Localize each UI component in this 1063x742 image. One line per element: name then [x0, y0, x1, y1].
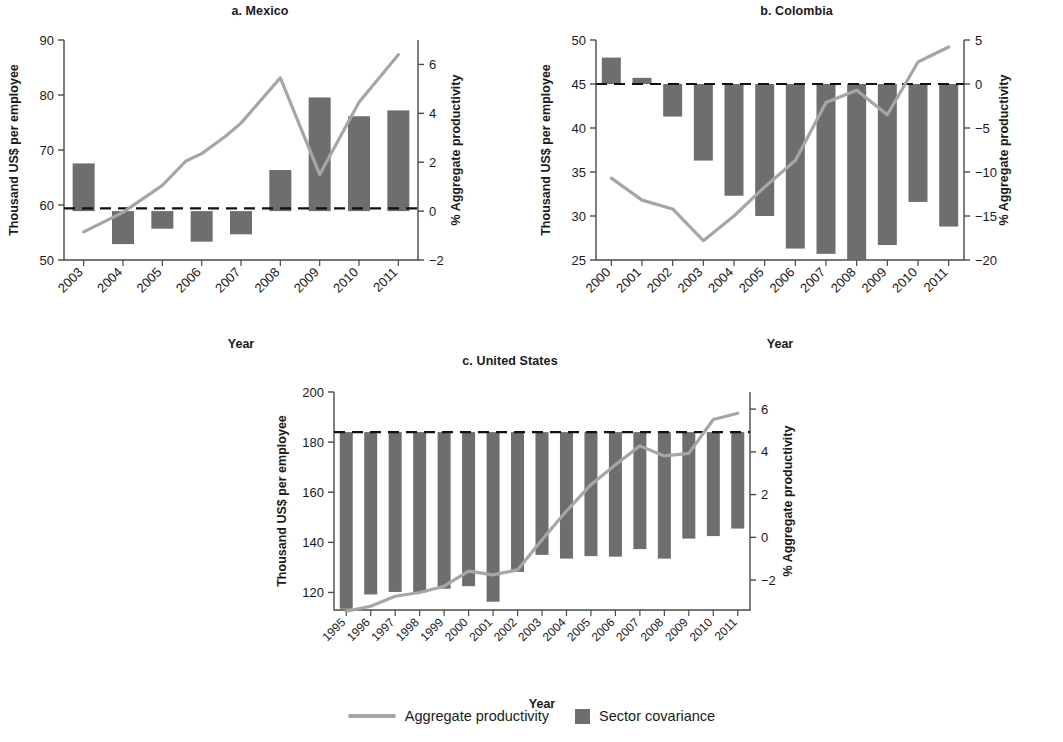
legend-swatch-icon: [575, 709, 590, 724]
bar-sector-covariance: [817, 84, 836, 254]
legend-label-aggregate-productivity: Aggregate productivity: [405, 708, 549, 724]
x-ticklabel: 2004: [94, 265, 125, 296]
y-ticklabel-left: 90: [40, 33, 54, 48]
x-ticklabel: 2006: [173, 265, 204, 296]
bar-sector-covariance: [364, 432, 377, 594]
x-ticklabel: 2001: [466, 615, 495, 644]
x-ticklabel: 1996: [344, 615, 373, 644]
x-ticklabel: 2004: [705, 265, 736, 296]
x-ticklabel: 2008: [251, 265, 282, 296]
y-ticklabel-left: 80: [40, 88, 54, 103]
x-ticklabel: 2005: [736, 265, 767, 296]
bar-sector-covariance: [269, 170, 291, 211]
x-ticklabel: 1997: [369, 615, 398, 644]
x-ticklabel: 2003: [55, 265, 86, 296]
panel-colombia: b. Colombia 253035404550−20−15−10−505200…: [530, 0, 1063, 340]
x-ticklabel: 2005: [564, 615, 593, 644]
bar-sector-covariance: [462, 432, 475, 586]
bar-sector-covariance: [658, 432, 671, 559]
legend-label-sector-covariance: Sector covariance: [599, 708, 715, 724]
panel-mexico-title: a. Mexico: [0, 4, 520, 18]
y-ticklabel-left: 200: [302, 385, 324, 400]
x-ticklabel: 2010: [889, 265, 920, 296]
panel-colombia-title: b. Colombia: [530, 4, 1063, 18]
y-axis-title-left: Thousand US$ per employee: [275, 415, 289, 587]
panel-mexico: a. Mexico 5060708090−2024620032004200520…: [0, 0, 520, 340]
bar-sector-covariance: [584, 432, 597, 556]
x-ticklabel: 2007: [797, 265, 828, 296]
x-ticklabel: 2006: [589, 615, 618, 644]
bar-sector-covariance: [387, 110, 409, 211]
bar-sector-covariance: [602, 58, 621, 84]
legend-line-icon: [348, 714, 396, 718]
panel-united-states: c. United States 120140160180200−2024619…: [230, 350, 830, 700]
y-ticklabel-left: 40: [572, 121, 586, 136]
y-ticklabel-right: 6: [429, 57, 436, 72]
y-ticklabel-right: 6: [761, 402, 768, 417]
y-ticklabel-right: 0: [761, 530, 768, 545]
y-ticklabel-left: 35: [572, 165, 586, 180]
y-ticklabel-left: 70: [40, 143, 54, 158]
y-axis-title-right: % Aggregate productivity: [449, 74, 463, 225]
x-axis-title: Year: [767, 337, 794, 351]
bar-sector-covariance: [230, 211, 252, 234]
bar-sector-covariance: [663, 84, 682, 117]
x-ticklabel: 2000: [582, 265, 613, 296]
y-ticklabel-left: 50: [40, 253, 54, 268]
bar-sector-covariance: [694, 84, 713, 161]
x-axis-title: Year: [228, 337, 255, 351]
figure-legend: Aggregate productivity Sector covariance: [0, 708, 1063, 724]
bar-sector-covariance: [560, 432, 573, 559]
y-ticklabel-left: 120: [302, 585, 324, 600]
bar-sector-covariance: [438, 432, 451, 589]
y-ticklabel-right: 0: [975, 77, 982, 92]
x-ticklabel: 2010: [330, 265, 361, 296]
x-ticklabel: 1998: [393, 615, 422, 644]
y-axis-title-right: % Aggregate productivity: [781, 425, 795, 576]
y-ticklabel-right: −10: [975, 165, 997, 180]
x-ticklabel: 2000: [442, 615, 471, 644]
x-ticklabel: 2005: [133, 265, 164, 296]
y-ticklabel-right: 2: [429, 155, 436, 170]
panel-united-states-plot: 120140160180200−202461995199619971998199…: [230, 372, 830, 700]
x-ticklabel: 2001: [613, 265, 644, 296]
y-ticklabel-right: −15: [975, 209, 997, 224]
y-ticklabel-right: 2: [761, 487, 768, 502]
bar-sector-covariance: [191, 211, 213, 242]
y-ticklabel-right: −2: [429, 253, 444, 268]
bar-sector-covariance: [755, 84, 774, 216]
y-ticklabel-right: −20: [975, 253, 997, 268]
x-ticklabel: 1999: [417, 615, 446, 644]
y-ticklabel-left: 60: [40, 198, 54, 213]
line-aggregate-productivity: [611, 47, 948, 241]
y-ticklabel-left: 180: [302, 435, 324, 450]
x-ticklabel: 2011: [712, 615, 740, 643]
x-ticklabel: 2008: [638, 615, 667, 644]
y-axis-title-left: Thousand US$ per employee: [7, 64, 21, 236]
bar-sector-covariance: [609, 432, 622, 557]
bar-sector-covariance: [340, 432, 353, 609]
bar-sector-covariance: [707, 432, 720, 536]
x-ticklabel: 2010: [687, 615, 716, 644]
y-axis-title-right: % Aggregate productivity: [997, 74, 1011, 225]
y-ticklabel-right: 4: [429, 106, 436, 121]
bar-sector-covariance: [413, 432, 426, 592]
x-ticklabel: 2009: [662, 615, 691, 644]
y-ticklabel-left: 50: [572, 33, 586, 48]
x-ticklabel: 2003: [674, 265, 705, 296]
x-ticklabel: 2002: [644, 265, 675, 296]
bar-sector-covariance: [909, 84, 928, 202]
x-ticklabel: 2002: [491, 615, 520, 644]
panel-mexico-plot: 5060708090−20246200320042005200620072008…: [0, 22, 520, 340]
legend-item-sector-covariance: Sector covariance: [575, 708, 715, 724]
panel-colombia-plot: 253035404550−20−15−10−505200020012002200…: [530, 22, 1063, 340]
y-axis-title-left: Thousand US$ per employee: [539, 64, 553, 236]
x-ticklabel: 2007: [212, 265, 243, 296]
x-ticklabel: 2004: [540, 615, 569, 644]
bar-sector-covariance: [348, 116, 370, 211]
y-ticklabel-right: 4: [761, 444, 768, 459]
bar-sector-covariance: [389, 432, 402, 592]
y-ticklabel-left: 30: [572, 209, 586, 224]
panel-united-states-title: c. United States: [230, 354, 790, 368]
y-ticklabel-left: 160: [302, 485, 324, 500]
